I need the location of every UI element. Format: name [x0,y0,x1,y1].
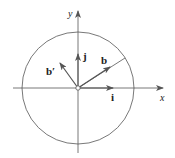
y-axis-label: y [67,8,73,19]
vector-b-prime-label: b′ [46,65,55,77]
vector-i-label: i [111,91,114,103]
origin-point [76,86,80,90]
vector-b-prime-arrow [60,63,78,88]
vector-b-arrow [78,67,110,88]
x-axis-label: x [159,92,165,103]
vector-diagram: y x i j b b′ [0,0,175,158]
vector-j-label: j [82,50,87,62]
vector-b-label: b [101,54,107,66]
